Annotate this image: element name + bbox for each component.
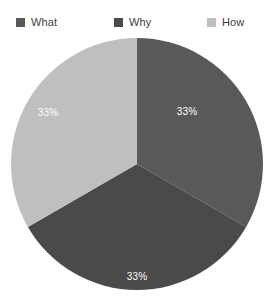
legend-label: What <box>31 17 57 28</box>
legend-swatch-icon <box>16 18 25 27</box>
legend-label: How <box>222 17 244 28</box>
pie-chart-figure: What Why How 33% 33% 33% <box>0 0 274 306</box>
chart-legend: What Why How <box>0 0 274 36</box>
pie-slices <box>11 38 263 290</box>
pie-slice-value-label: 33% <box>38 107 59 118</box>
legend-item-how[interactable]: How <box>207 15 244 29</box>
legend-label: Why <box>129 17 151 28</box>
pie-slice-value-label: 33% <box>177 106 198 117</box>
pie-plot-area: 33% 33% 33% <box>9 36 265 292</box>
pie-svg: 33% 33% 33% <box>9 36 265 292</box>
legend-item-why[interactable]: Why <box>114 15 151 29</box>
legend-item-what[interactable]: What <box>16 15 57 29</box>
legend-swatch-icon <box>114 18 123 27</box>
legend-swatch-icon <box>207 18 216 27</box>
pie-slice-value-label: 33% <box>127 271 148 282</box>
